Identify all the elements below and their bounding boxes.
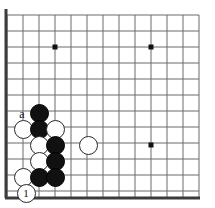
hoshi-lower-right	[149, 143, 154, 148]
hoshi-upper-left	[53, 45, 58, 50]
white-stone-4[interactable]	[79, 136, 98, 155]
hoshi-upper-right	[149, 45, 154, 50]
white-stone-move-1-move-number: 1	[17, 184, 36, 203]
go-diagram: 1 a	[0, 0, 215, 208]
point-label-a: a	[14, 106, 30, 122]
black-stone-6[interactable]	[46, 168, 65, 187]
